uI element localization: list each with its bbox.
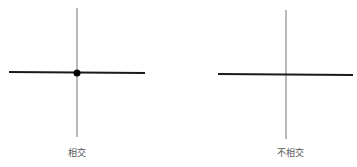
intersecting-diagram xyxy=(9,8,145,137)
non-intersecting-diagram xyxy=(218,10,353,139)
diagram-canvas xyxy=(0,0,357,167)
label-non-intersecting: 不相交 xyxy=(277,146,304,159)
horizontal-line-right xyxy=(218,74,353,75)
intersection-dot xyxy=(74,70,81,77)
label-intersecting: 相交 xyxy=(68,146,86,159)
